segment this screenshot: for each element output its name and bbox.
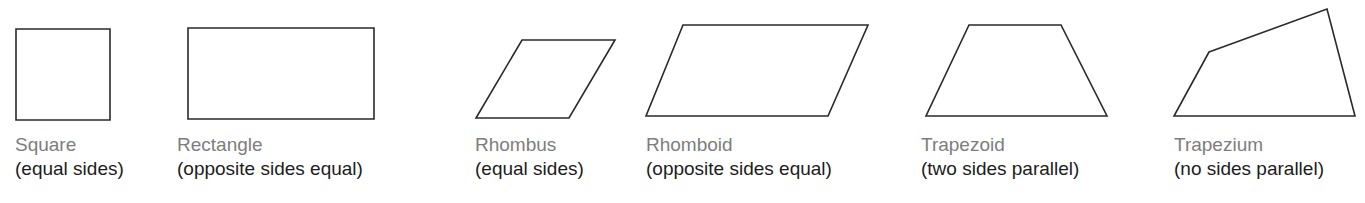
- rectangle-name: Rectangle: [177, 133, 363, 157]
- square-description: (equal sides): [15, 157, 124, 181]
- rhombus-shape: [476, 40, 615, 118]
- rhomboid-description: (opposite sides equal): [646, 157, 832, 181]
- rectangle-description: (opposite sides equal): [177, 157, 363, 181]
- trapezoid-label: Trapezoid (two sides parallel): [921, 133, 1079, 181]
- trapezium-description: (no sides parallel): [1174, 157, 1324, 181]
- rectangle-label: Rectangle (opposite sides equal): [177, 133, 363, 181]
- rhombus-name: Rhombus: [475, 133, 584, 157]
- rectangle-shape: [188, 28, 374, 119]
- rhombus-description: (equal sides): [475, 157, 584, 181]
- rhomboid-name: Rhomboid: [646, 133, 832, 157]
- square-shape: [16, 29, 110, 120]
- rhomboid-shape: [646, 25, 868, 116]
- trapezoid-name: Trapezoid: [921, 133, 1079, 157]
- trapezoid-shape: [926, 25, 1107, 116]
- square-label: Square (equal sides): [15, 133, 124, 181]
- trapezium-name: Trapezium: [1174, 133, 1324, 157]
- trapezium-label: Trapezium (no sides parallel): [1174, 133, 1324, 181]
- trapezoid-description: (two sides parallel): [921, 157, 1079, 181]
- rhombus-label: Rhombus (equal sides): [475, 133, 584, 181]
- trapezium-shape: [1174, 9, 1355, 116]
- square-name: Square: [15, 133, 124, 157]
- rhomboid-label: Rhomboid (opposite sides equal): [646, 133, 832, 181]
